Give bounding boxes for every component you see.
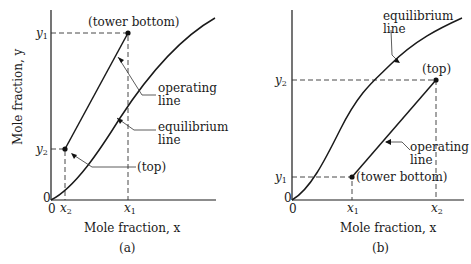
panel-a-top-leader [72,154,136,167]
panel-b-top-label: (top) [422,62,451,76]
panel-b-caption: (b) [372,241,389,255]
panel-a-origin-x: 0 [48,202,56,216]
panel-a-operating-arrow-icon [118,57,124,63]
panel-a-x2-tick: x2 [60,201,72,216]
panel-a-operating-label-2: line [158,94,181,108]
panel-a-caption: (a) [119,241,136,255]
panel-a-equilibrium-line [51,18,215,200]
panel-a-top-point [62,146,67,151]
panel-a-x-axis-label: Mole fraction, x [84,221,181,235]
panel-a-x1-tick: x1 [124,201,136,216]
panel-a-equilibrium-label-2: line [158,133,181,147]
panel-a-equilibrium-leader [117,118,156,130]
panel-a-y2-tick: y2 [35,142,48,157]
panel-b-y2-tick: y2 [274,73,287,88]
panel-b-operating-arrow-icon [385,139,391,145]
panel-b-tower-bottom-label: (tower bottom) [356,170,448,184]
panel-b-equilibrium-label-1: equilibrium [383,9,454,23]
panel-a-y1-guide [51,33,128,200]
panel-b-tower-bottom-point [349,174,354,179]
panel-a-top-label: (top) [137,160,166,174]
panel-a-tower-bottom-point [125,30,130,35]
panel-b-operating-label-1: operating [410,140,469,154]
panel-b-y1-guide [292,177,352,200]
panel-a: (tower bottom) operating line equilibriu… [11,10,229,255]
operating-equilibrium-diagram: (tower bottom) operating line equilibriu… [0,0,471,264]
panel-b-top-point [433,77,438,82]
panel-a-operating-line [65,33,128,149]
panel-a-y1-tick: y1 [35,26,48,41]
panel-b-origin-x: 0 [289,202,297,216]
panel-b-x2-tick: x2 [431,201,443,216]
panel-b-equilibrium-label-2: line [383,22,406,36]
panel-a-operating-label-1: operating [158,81,217,95]
panel-a-tower-bottom-label: (tower bottom) [88,15,180,29]
panel-b-y1-tick: y1 [274,170,287,185]
panel-a-top-arrow-icon [71,153,77,159]
panel-a-equilibrium-label-1: equilibrium [158,120,229,134]
panel-b: equilibrium line (top) operating line (t… [274,9,469,255]
panel-b-operating-label-2: line [410,153,433,167]
panel-a-y-axis-label: Mole fraction, y [11,48,25,145]
panel-b-x-axis-label: Mole fraction, x [340,221,437,235]
panel-b-x1-tick: x1 [347,201,359,216]
